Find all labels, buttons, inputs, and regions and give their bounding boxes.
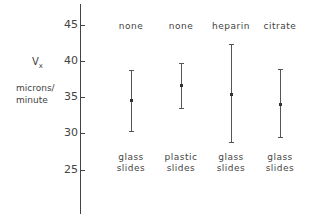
y-axis <box>80 4 81 214</box>
y-tick-label: 30 <box>48 127 78 139</box>
y-tick-25 <box>80 170 85 171</box>
mean-marker <box>130 99 133 102</box>
y-axis-units-line1: microns/ <box>16 82 55 94</box>
category-top-label: citrate <box>250 21 310 31</box>
error-cap-lower <box>129 131 134 132</box>
error-cap-lower <box>278 137 283 138</box>
label-line1: glass <box>250 152 310 163</box>
error-cap-upper <box>229 44 234 45</box>
y-tick-label: 25 <box>48 164 78 176</box>
y-axis-units-line2: minute <box>16 94 48 106</box>
y-tick-label: 40 <box>48 55 78 67</box>
label-line2: slides <box>250 163 310 174</box>
mean-marker <box>230 93 233 96</box>
error-cap-lower <box>229 142 234 143</box>
y-tick-45 <box>80 25 85 26</box>
error-cap-upper <box>278 69 283 70</box>
mean-marker <box>279 103 282 106</box>
y-axis-label: Vx <box>32 56 43 72</box>
y-axis-symbol: V <box>32 56 39 67</box>
y-tick-30 <box>80 133 85 134</box>
error-cap-upper <box>129 70 134 71</box>
error-cap-upper <box>179 63 184 64</box>
mean-marker <box>180 84 183 87</box>
category-bottom-label: glassslides <box>250 152 310 174</box>
error-cap-lower <box>179 108 184 109</box>
y-tick-label: 45 <box>48 19 78 31</box>
y-tick-35 <box>80 97 85 98</box>
y-tick-40 <box>80 61 85 62</box>
y-axis-subscript: x <box>39 62 43 70</box>
